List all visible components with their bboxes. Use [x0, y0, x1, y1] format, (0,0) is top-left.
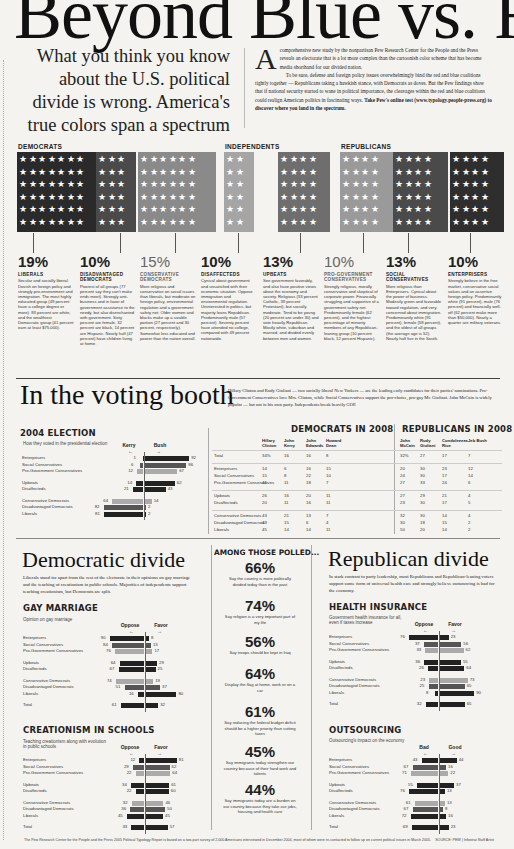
- party-label-democrats: DEMOCRATS: [18, 143, 62, 150]
- bar-left: [136, 481, 143, 486]
- bar-value: 32: [417, 701, 422, 706]
- chart-row: Social Conservatives8413: [23, 643, 198, 648]
- divider: [244, 48, 245, 128]
- row-label: Upbeats: [23, 782, 39, 787]
- bar-value: 36: [415, 659, 420, 664]
- column-header: John Kerry: [284, 438, 304, 448]
- chart-row: Social Conservatives686: [22, 463, 212, 468]
- bar-left: [127, 814, 144, 819]
- bar-right: [440, 702, 465, 707]
- bar-value: 86: [188, 462, 193, 467]
- row-label: Pro-Government Conservatives: [23, 648, 83, 653]
- star-icon: ★★★: [98, 203, 134, 216]
- typology-group: 19%LIBERALSSecular and socially liberal.…: [18, 254, 74, 330]
- leader-line: [300, 233, 301, 253]
- bar-left: [139, 758, 144, 763]
- bar-left: [424, 642, 438, 647]
- bar-value: 67: [110, 666, 115, 671]
- star-icon: ★★★★: [342, 216, 391, 229]
- bar-left: [428, 666, 438, 671]
- chart-row: Disadvantaged Democrats5137: [23, 685, 198, 690]
- table-cell: 16: [284, 493, 289, 498]
- row-label: Upbeats: [214, 493, 230, 498]
- chart-row: Disaffecteds7613: [329, 789, 511, 794]
- table-rule: [212, 510, 502, 511]
- bar-left: [411, 814, 438, 819]
- bar-value: 90: [476, 690, 481, 695]
- bar-value: 61: [171, 782, 176, 787]
- arrow-right-icon: →: [451, 627, 456, 633]
- bar-left: [413, 807, 438, 812]
- table-cell: 50: [400, 527, 405, 532]
- star-icon: ★★★★★★: [140, 166, 214, 179]
- bar-value: 62: [172, 764, 177, 769]
- table-cell: 13: [306, 513, 311, 518]
- bar-right: [440, 789, 445, 794]
- star-icon: ★★★★: [452, 191, 502, 204]
- row-label: Pro-Government Conservatives: [329, 770, 389, 775]
- bar-left: [140, 463, 143, 468]
- bar-right: [440, 635, 449, 640]
- table-cell: 20: [306, 493, 311, 498]
- star-icon: ★★★★: [452, 178, 502, 191]
- star-icon: ★★★★: [342, 203, 391, 216]
- bar-left: [413, 765, 438, 770]
- star-icon: ★★★★: [452, 153, 502, 166]
- bar-value: 8: [426, 690, 428, 695]
- bar-right: [145, 469, 177, 474]
- bar-left: [119, 667, 144, 672]
- row-label: Disaffecteds: [214, 500, 238, 505]
- row-label: Conservative Democrats: [23, 678, 70, 683]
- bar-value: 60: [171, 788, 176, 793]
- bar-value: 67: [404, 764, 409, 769]
- star-icon: ★★: [226, 178, 252, 191]
- bar-value: 23: [451, 634, 456, 639]
- bar-right: [146, 661, 157, 666]
- table-cell: 14: [442, 527, 447, 532]
- bar-value: 67: [404, 806, 409, 811]
- bar-right: [146, 643, 151, 648]
- row-label: Liberals: [329, 690, 344, 695]
- election-2004-chart: KerryBush←→Enterprisers192Social Conserv…: [22, 446, 212, 534]
- table-rule: [212, 463, 502, 464]
- gay-marriage-heading: GAY MARRIAGE: [23, 603, 98, 613]
- intro-text: A comprehensive new study by the nonpart…: [255, 46, 493, 112]
- table-cell: 45: [262, 527, 267, 532]
- table-cell: 32%: [400, 453, 409, 458]
- bar-left: [409, 635, 438, 640]
- row-label: Disadvantaged Democrats: [23, 806, 74, 811]
- bar-right: [440, 642, 461, 647]
- chart-row: Upbeats3461: [23, 783, 198, 788]
- bar-value: 21: [124, 486, 129, 491]
- bar-value: 76: [400, 788, 405, 793]
- table-cell: 30: [420, 466, 425, 471]
- bar-value: 2: [148, 504, 150, 509]
- star-icon: ★★★★★★★: [19, 153, 101, 166]
- bar-left: [138, 692, 144, 697]
- row-label: Disadvantaged Democrats: [23, 684, 74, 689]
- bar-value: 90: [101, 635, 106, 640]
- chart-axis: [145, 632, 146, 712]
- star-block: ★★★★★★★★★★★★★★★★★★★★★★★★★★★★★★★★★★★★: [138, 152, 216, 232]
- row-label: Upbeats: [329, 782, 345, 787]
- bar-value: 29: [159, 660, 164, 665]
- chart-row: Social Conservatives3756: [329, 642, 511, 647]
- star-icon: ★★★★: [280, 203, 328, 216]
- star-icon: ★★★★: [280, 178, 328, 191]
- bar-left: [104, 512, 143, 517]
- bar-left: [133, 765, 144, 770]
- poll-percent: 44%: [214, 782, 306, 798]
- table-cell: 24: [400, 473, 405, 478]
- star-icon: ★★★★: [342, 166, 391, 179]
- row-label: Disaffecteds: [329, 665, 353, 670]
- bar-right: [440, 666, 464, 671]
- bar-value: 64: [172, 770, 177, 775]
- graphic-credit: SOURCE: PEW | Infostrat Staff Artist: [435, 838, 494, 842]
- row-label: Total: [23, 702, 32, 707]
- chart-row: Disaffecteds2143: [22, 487, 212, 492]
- table-cell: 5: [468, 500, 470, 505]
- bar-value: 32: [160, 702, 165, 707]
- group-percent: 10%: [324, 254, 380, 270]
- bar-value: 46: [165, 800, 170, 805]
- poll-percent: 56%: [214, 634, 306, 650]
